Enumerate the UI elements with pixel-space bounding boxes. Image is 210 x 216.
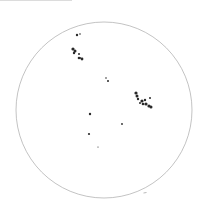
group-upper-left-small bbox=[76, 33, 81, 36]
sunspot bbox=[88, 133, 90, 135]
sunspot bbox=[136, 95, 139, 98]
group-right bbox=[134, 91, 152, 108]
sunspot bbox=[150, 106, 153, 109]
solar-disk-drawing bbox=[0, 0, 210, 216]
tick-mark bbox=[144, 193, 147, 194]
sunspot bbox=[73, 52, 75, 54]
group-upper-left bbox=[71, 47, 83, 60]
sunspot bbox=[97, 146, 98, 147]
sunspot bbox=[144, 102, 147, 105]
disk-outline bbox=[16, 22, 192, 198]
sunspot bbox=[79, 57, 81, 59]
sunspot bbox=[134, 91, 137, 94]
sunspot bbox=[76, 34, 78, 36]
sunspot bbox=[137, 98, 139, 100]
sunspot bbox=[78, 53, 80, 55]
sunspot bbox=[149, 97, 151, 99]
sunspot bbox=[81, 58, 84, 61]
group-center bbox=[105, 77, 109, 82]
sunspot bbox=[140, 99, 143, 102]
sunspot bbox=[105, 77, 107, 79]
sunspot bbox=[144, 99, 146, 101]
sunspot bbox=[139, 102, 141, 104]
single-spots bbox=[88, 113, 123, 148]
sunspot bbox=[79, 33, 81, 35]
sunspot bbox=[142, 103, 145, 106]
sunspot bbox=[107, 80, 109, 82]
sunspot bbox=[121, 123, 123, 125]
sunspot bbox=[89, 113, 91, 115]
